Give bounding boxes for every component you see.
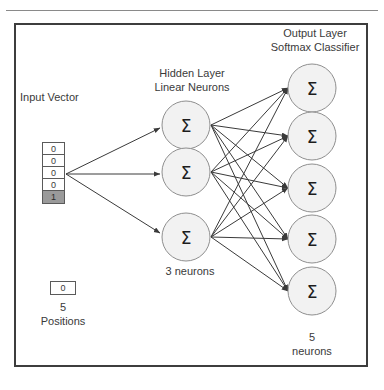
input-vector-cell: 0: [43, 143, 64, 155]
input-vector-cell: 0: [43, 155, 64, 167]
hidden-layer-label: Hidden Layer Linear Neurons: [137, 66, 247, 94]
input-vector-cell-active: 1: [43, 191, 64, 203]
output-neuron-count-line2: neurons: [292, 345, 332, 357]
positions-label-line2: Positions: [41, 315, 86, 327]
input-vector: 0 0 0 0 1: [42, 142, 65, 204]
hidden-neuron-count-label: 3 neurons: [140, 264, 240, 278]
output-neuron-count-line1: 5: [309, 331, 315, 343]
output-layer-label-line1: Output Layer: [283, 27, 347, 39]
output-layer-label-line2: Softmax Classifier: [271, 41, 360, 53]
output-layer-label: Output Layer Softmax Classifier: [252, 26, 378, 54]
page-top-rule: [6, 10, 378, 11]
output-neuron-count-label: 5 neurons: [266, 330, 358, 358]
input-vector-cell: 0: [43, 179, 64, 191]
hidden-layer-label-line1: Hidden Layer: [159, 67, 224, 79]
legend-position-cell: 0: [50, 281, 76, 295]
positions-label: 5 Positions: [28, 300, 98, 328]
input-vector-cell: 0: [43, 167, 64, 179]
input-vector-label: Input Vector: [20, 90, 79, 104]
hidden-layer-label-line2: Linear Neurons: [154, 81, 229, 93]
positions-label-line1: 5: [60, 301, 66, 313]
